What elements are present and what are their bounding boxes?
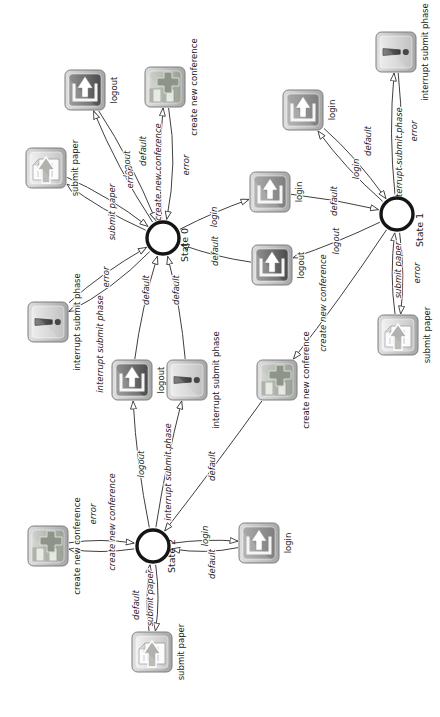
transition-label: error xyxy=(125,167,135,188)
create-new-conference-icon[interactable]: create new conference xyxy=(145,38,199,135)
transition-label: create new conference xyxy=(153,123,163,221)
transition-label: create new conference xyxy=(107,473,117,571)
interrupt-submit-phase-icon[interactable]: interrupt submit phase xyxy=(28,273,82,371)
diagram-canvas: logoutdefaultcreate new conferenceerrors… xyxy=(0,0,440,717)
transition-label: default xyxy=(210,235,220,266)
transition-label: login xyxy=(200,526,210,547)
login-icon[interactable]: login xyxy=(239,523,293,563)
transition-label: default xyxy=(138,135,148,166)
state-1-node[interactable]: State 1 xyxy=(381,198,425,247)
icon-caption: login xyxy=(294,182,304,203)
icon-caption: create new conference xyxy=(72,497,82,594)
logout-icon[interactable]: logout xyxy=(252,245,306,285)
interrupt-submit-phase-icon[interactable]: interrupt submit phase xyxy=(167,331,221,429)
submit-paper-icon[interactable]: submit paper xyxy=(132,623,186,680)
transition-label: default xyxy=(207,450,217,481)
interrupt-submit-phase-icon[interactable]: interrupt submit phase xyxy=(376,3,430,101)
transition-label: interrupt submit phase xyxy=(95,295,105,393)
transition-label: submit paper xyxy=(107,183,117,240)
icon-caption: interrupt submit phase xyxy=(211,331,221,429)
transition-label: submit paper xyxy=(145,569,155,626)
transition-label: login xyxy=(351,159,361,180)
transition-label: error xyxy=(412,262,422,283)
icon-caption: logout xyxy=(109,76,119,104)
transition-label: error xyxy=(101,266,111,287)
icon-caption: interrupt submit phase xyxy=(420,3,430,101)
transition-label: interrupt submit phase xyxy=(394,107,404,205)
transition-edge xyxy=(135,256,158,359)
logout-icon[interactable]: logout xyxy=(112,360,166,400)
edges-layer xyxy=(67,73,403,631)
transition-label: default xyxy=(207,548,217,579)
transition-label: error xyxy=(88,503,98,524)
transition-label: login xyxy=(209,207,219,228)
login-icon[interactable]: login xyxy=(250,172,304,212)
icon-caption: submit paper xyxy=(70,139,80,196)
transition-edge xyxy=(155,565,158,631)
transition-label: default xyxy=(131,589,141,620)
state-label: State 1 xyxy=(414,213,425,247)
icon-caption: login xyxy=(327,100,337,121)
transition-label: submit paper xyxy=(393,241,403,298)
transition-label: logout xyxy=(136,450,146,478)
icon-caption: logout xyxy=(296,251,306,279)
transition-label: default xyxy=(171,274,181,305)
state-label: State 0 xyxy=(179,228,190,262)
create-new-conference-icon[interactable]: create new conference xyxy=(28,497,82,594)
transition-label: create new conference xyxy=(318,254,328,352)
icon-caption: submit paper xyxy=(422,306,432,363)
icons-layer: logoutcreate new conferencesubmit paperi… xyxy=(26,3,432,680)
state-2-node[interactable]: State 2 xyxy=(137,530,177,573)
state-0-node[interactable]: State 0 xyxy=(147,222,190,262)
transition-label: interrupt submit phase xyxy=(163,423,173,521)
transition-label: error xyxy=(181,154,191,175)
icon-caption: logout xyxy=(156,366,166,394)
login-icon[interactable]: login xyxy=(283,90,337,130)
icon-caption: interrupt submit phase xyxy=(72,273,82,371)
transition-edge xyxy=(167,108,173,219)
submit-paper-icon[interactable]: submit paper xyxy=(26,139,80,196)
submit-paper-icon[interactable]: submit paper xyxy=(378,306,432,363)
transition-edge xyxy=(172,548,238,552)
logout-icon[interactable]: logout xyxy=(65,70,119,110)
icon-caption: create new conference xyxy=(189,38,199,135)
transition-edge xyxy=(168,256,186,359)
state-machine-diagram: logoutdefaultcreate new conferenceerrors… xyxy=(0,0,440,717)
icon-caption: create new conference xyxy=(301,331,311,428)
transition-label: default xyxy=(141,274,151,305)
state-label: State 2 xyxy=(166,539,177,573)
transition-label: default xyxy=(363,125,373,156)
transition-label: logout xyxy=(331,227,341,255)
transition-label: default xyxy=(329,185,339,216)
icon-caption: submit paper xyxy=(176,623,186,680)
create-new-conference-icon[interactable]: create new conference xyxy=(257,331,311,428)
icon-caption: login xyxy=(283,533,293,554)
transition-label: error xyxy=(409,120,419,141)
